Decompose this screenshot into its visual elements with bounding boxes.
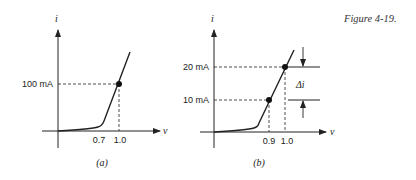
delta-i-label: Δi (295, 79, 305, 90)
point-10ma (266, 97, 272, 103)
x-tick-0.7: 0.7 (93, 135, 106, 145)
x-tick-0.9: 0.9 (263, 136, 276, 146)
operating-point (116, 81, 122, 87)
y-tick-20ma: 20 mA (183, 62, 209, 72)
y-tick-100ma: 100 mA (22, 79, 53, 89)
x-axis-label: v (163, 125, 168, 136)
panel-label-b: (b) (253, 157, 265, 169)
point-20ma (282, 64, 288, 70)
y-tick-10ma: 10 mA (183, 95, 209, 105)
panel-b: i v Δi 20 mA 10 mA 0.9 1.0 (b) (183, 13, 335, 169)
y-axis-label: i (211, 13, 214, 24)
figure-canvas: i v 100 mA 0.7 1.0 (a) i v Δi 20 mA 10 m… (0, 0, 416, 180)
panel-label-a: (a) (96, 157, 108, 169)
x-axis-label: v (330, 126, 335, 137)
panel-a: i v 100 mA 0.7 1.0 (a) (22, 13, 168, 169)
figure-caption: Figure 4-19. (343, 13, 397, 24)
y-axis-label: i (55, 13, 58, 24)
x-tick-1.0: 1.0 (281, 136, 294, 146)
x-tick-1.0: 1.0 (114, 135, 127, 145)
iv-curve (214, 50, 294, 132)
